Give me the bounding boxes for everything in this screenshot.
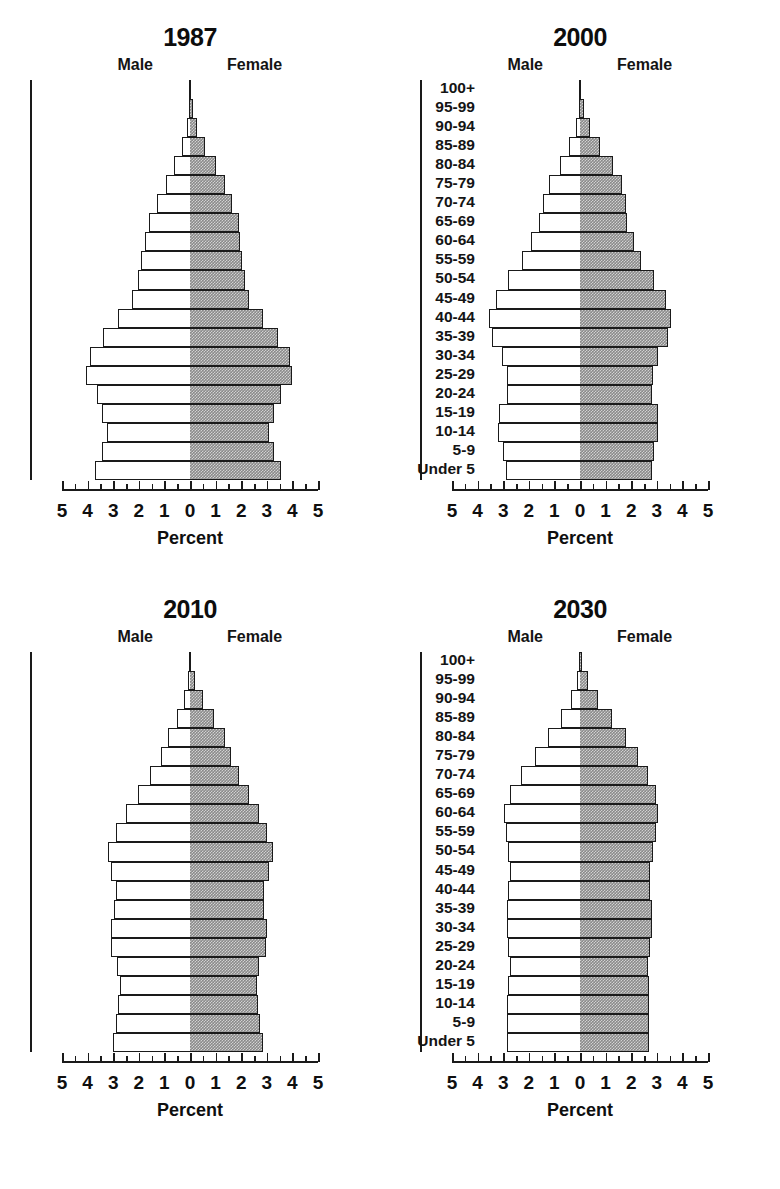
age-group-label: 100+	[355, 78, 475, 97]
bar-male	[132, 290, 190, 309]
axis-tick	[305, 1056, 307, 1062]
axis-tick	[139, 481, 141, 490]
axis-tick	[88, 1053, 90, 1062]
axis-tick-label: 0	[575, 1072, 586, 1094]
bar-female	[190, 1014, 260, 1033]
bar-male	[560, 156, 580, 175]
bar-male	[531, 232, 580, 251]
bar-female	[190, 232, 240, 251]
bar-male	[508, 938, 580, 957]
age-group-label: 15-19	[355, 974, 475, 993]
bar-female	[580, 385, 652, 404]
bar-male	[149, 213, 190, 232]
bar-female	[580, 690, 598, 709]
legend-2010: Male Female	[30, 626, 350, 652]
axis-tick	[567, 1056, 569, 1062]
x-axis-tick-labels-1987: 54321012345	[30, 500, 350, 526]
axis-tick	[152, 1056, 154, 1062]
pyramid-bars	[30, 652, 350, 1052]
bar-male	[499, 404, 580, 423]
bar-male	[116, 823, 190, 842]
bar-male	[489, 309, 580, 328]
age-group-label: 70-74	[355, 764, 475, 783]
axis-tick	[139, 1053, 141, 1062]
x-axis-2010	[30, 1052, 350, 1072]
legend-1987: Male Female	[30, 54, 350, 80]
pyramid-row	[30, 690, 350, 709]
bar-male	[177, 709, 190, 728]
axis-tick-label: 5	[313, 500, 324, 522]
bar-male	[102, 404, 190, 423]
bar-male	[107, 423, 190, 442]
bar-female	[190, 804, 259, 823]
axis-tick	[670, 484, 672, 490]
x-axis-title-2030: Percent	[420, 1100, 740, 1121]
bar-female	[190, 728, 225, 747]
axis-tick	[177, 484, 179, 490]
bar-female	[580, 366, 653, 385]
bar-male	[182, 137, 190, 156]
axis-tick-label: 3	[498, 500, 509, 522]
axis-tick-label: 4	[472, 500, 483, 522]
bar-female	[580, 290, 666, 309]
bar-female	[580, 251, 641, 270]
bar-female	[190, 137, 205, 156]
bar-male	[126, 804, 190, 823]
panel-title-2030: 2030	[420, 594, 740, 626]
axis-tick	[478, 1053, 480, 1062]
bar-male	[508, 842, 580, 861]
legend-male-label: Male	[507, 628, 543, 646]
axis-tick	[529, 1053, 531, 1062]
axis-tick	[465, 484, 467, 490]
bar-male	[138, 785, 190, 804]
pyramid-row	[30, 785, 350, 804]
age-group-label: 10-14	[355, 993, 475, 1012]
axis-tick-label: 4	[677, 1072, 688, 1094]
bar-female	[580, 766, 648, 785]
axis-tick	[280, 1056, 282, 1062]
axis-tick-label: 5	[703, 1072, 714, 1094]
age-group-label: 45-49	[355, 288, 475, 307]
bar-female	[190, 957, 259, 976]
axis-tick	[657, 1053, 659, 1062]
pyramid-row	[30, 938, 350, 957]
age-group-axis-top: 100+95-9990-9485-8980-8475-7970-7465-696…	[355, 78, 475, 478]
bar-female	[580, 976, 649, 995]
bar-female	[190, 862, 269, 881]
age-group-label: 50-54	[355, 840, 475, 859]
axis-tick	[241, 481, 243, 490]
bar-female	[190, 747, 231, 766]
bar-female	[190, 385, 281, 404]
axis-tick	[292, 1053, 294, 1062]
axis-tick-label: 3	[652, 1072, 663, 1094]
bar-female	[190, 995, 258, 1014]
bar-male	[492, 328, 580, 347]
axis-tick	[606, 481, 608, 490]
bar-male	[507, 1033, 580, 1052]
age-group-label: 100+	[355, 650, 475, 669]
axis-tick-label: 4	[472, 1072, 483, 1094]
bar-female	[580, 347, 658, 366]
bar-male	[108, 842, 190, 861]
pyramid-row	[30, 137, 350, 156]
axis-tick	[126, 484, 128, 490]
bar-male	[506, 823, 580, 842]
axis-tick	[695, 484, 697, 490]
bar-male	[539, 213, 580, 232]
bar-male	[507, 1014, 580, 1033]
bar-female	[580, 881, 650, 900]
axis-tick-label: 0	[185, 1072, 196, 1094]
bar-female	[580, 652, 582, 671]
axis-tick-label: 4	[677, 500, 688, 522]
axis-tick-label: 5	[447, 500, 458, 522]
bar-female	[190, 213, 239, 232]
bar-male	[522, 251, 580, 270]
bar-female	[580, 194, 626, 213]
pyramid-row	[30, 232, 350, 251]
pyramid-row	[30, 823, 350, 842]
axis-tick	[126, 1056, 128, 1062]
axis-tick-label: 3	[498, 1072, 509, 1094]
axis-tick	[452, 481, 454, 490]
axis-tick-label: 2	[134, 1072, 145, 1094]
axis-tick-label: 1	[600, 1072, 611, 1094]
